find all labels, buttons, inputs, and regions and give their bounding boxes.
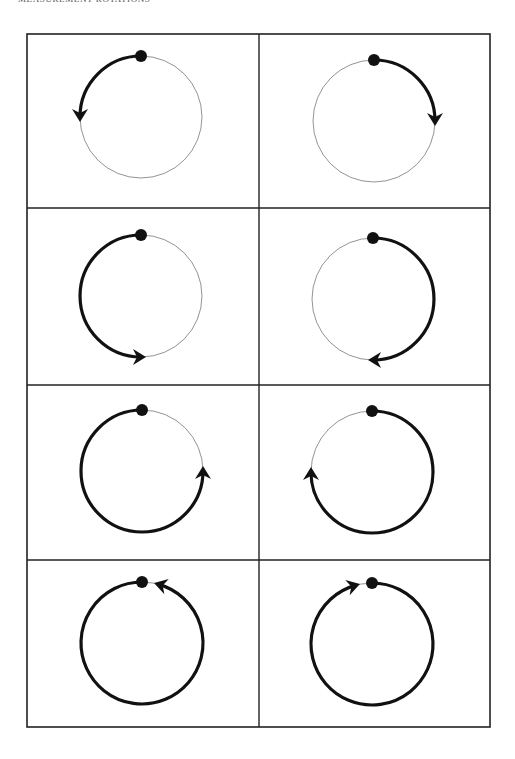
rotation-arc (311, 411, 433, 533)
start-point-dot (367, 232, 379, 244)
rotation-arc (311, 583, 433, 705)
rotation-arc (374, 60, 435, 121)
rotation-arc (81, 582, 203, 704)
start-point-dot (136, 404, 148, 416)
rotation-cell (303, 405, 433, 533)
start-point-dot (136, 576, 148, 588)
rotation-cell (313, 54, 443, 182)
rotation-arc (81, 410, 203, 532)
start-point-dot (135, 50, 147, 62)
rotation-arc (80, 235, 141, 357)
rotation-grid (0, 0, 515, 759)
rotation-arc (80, 56, 141, 117)
grid-borders (27, 34, 490, 727)
start-point-dot (366, 577, 378, 589)
rotation-cell (81, 404, 211, 532)
start-point-dot (366, 405, 378, 417)
rotation-cell (80, 229, 202, 365)
rotation-cell (81, 576, 203, 704)
rotation-arc (373, 238, 434, 360)
start-point-dot (135, 229, 147, 241)
start-point-dot (368, 54, 380, 66)
rotation-cell (312, 232, 434, 368)
rotation-cell (72, 50, 202, 178)
grid-cells (72, 50, 443, 705)
rotation-cell (311, 577, 433, 705)
